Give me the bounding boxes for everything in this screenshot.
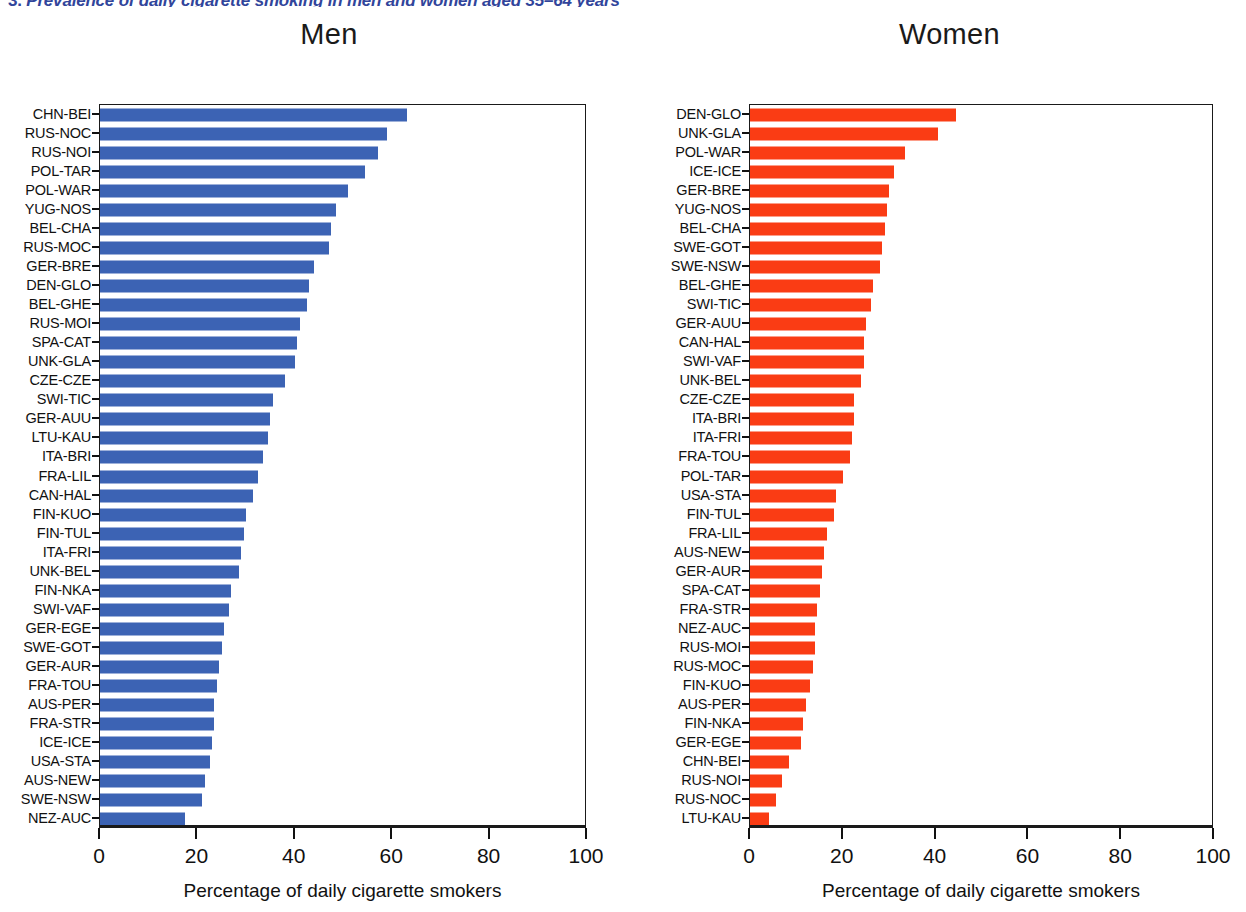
y-axis-label: GER-EGE <box>26 620 91 636</box>
y-axis-label: BEL-CHA <box>30 220 91 236</box>
x-axis-tick <box>841 828 843 839</box>
x-axis-tick <box>1119 828 1121 839</box>
y-axis-label: ITA-FRI <box>43 544 91 560</box>
bar <box>750 756 789 769</box>
y-axis-tick <box>92 608 99 610</box>
bar <box>100 794 202 807</box>
y-axis-label: POL-WAR <box>675 144 741 160</box>
y-axis-label: GER-AUR <box>26 658 91 674</box>
bar <box>750 508 834 521</box>
y-axis-tick <box>742 132 749 134</box>
y-axis-label: RUS-NOI <box>31 144 91 160</box>
bar <box>750 432 852 445</box>
y-axis-tick <box>742 455 749 457</box>
y-axis-tick <box>742 246 749 248</box>
y-axis-tick <box>92 436 99 438</box>
bar <box>750 527 827 540</box>
y-axis-label: ICE-ICE <box>39 734 91 750</box>
y-axis-tick <box>742 722 749 724</box>
y-axis-tick <box>92 189 99 191</box>
bar <box>100 699 214 712</box>
bar <box>750 584 820 597</box>
x-axis-tick <box>748 828 750 839</box>
bar <box>100 318 300 331</box>
x-axis-tick <box>1026 828 1028 839</box>
y-axis-label: FIN-NKA <box>34 582 91 598</box>
bar <box>100 241 329 254</box>
bar <box>100 432 268 445</box>
bar <box>100 337 297 350</box>
x-axis-tick <box>98 828 100 839</box>
y-axis-tick <box>742 303 749 305</box>
y-axis-label: SWI-VAF <box>33 601 91 617</box>
y-axis-tick <box>742 570 749 572</box>
bar <box>100 603 229 616</box>
bar <box>100 375 285 388</box>
y-axis-tick <box>742 817 749 819</box>
y-axis-tick <box>742 589 749 591</box>
y-axis-tick <box>742 608 749 610</box>
y-axis-label: FIN-KUO <box>683 677 741 693</box>
y-axis-label: FRA-STR <box>30 715 91 731</box>
y-axis-label: FRA-TOU <box>678 448 741 464</box>
y-axis-tick <box>742 113 749 115</box>
y-axis-label: DEN-GLO <box>26 277 91 293</box>
y-axis-label: SWI-TIC <box>37 391 91 407</box>
x-axis-tick-label: 20 <box>830 844 853 868</box>
y-axis-label: FIN-KUO <box>33 506 91 522</box>
y-axis-tick <box>742 494 749 496</box>
bar <box>100 184 348 197</box>
y-axis-tick <box>92 532 99 534</box>
y-axis-label: POL-WAR <box>25 182 91 198</box>
y-axis-label: ITA-BRI <box>692 410 741 426</box>
bar <box>750 280 873 293</box>
y-axis-label: BEL-GHE <box>29 296 91 312</box>
y-axis-tick <box>92 741 99 743</box>
y-axis-label: SWE-NSW <box>21 791 91 807</box>
bar <box>100 280 309 293</box>
bar <box>100 527 244 540</box>
y-axis-tick <box>742 627 749 629</box>
y-axis-label: POL-TAR <box>681 468 741 484</box>
bar <box>100 508 246 521</box>
bar <box>750 642 815 655</box>
y-axis-tick <box>92 494 99 496</box>
bar <box>100 451 263 464</box>
bar <box>100 260 314 273</box>
bar <box>100 489 253 502</box>
y-axis-tick <box>92 798 99 800</box>
y-axis-label: DEN-GLO <box>676 106 741 122</box>
figure-root: 3. Prevalence of daily cigarette smoking… <box>0 0 1246 912</box>
x-axis-tick-label: 0 <box>743 844 755 868</box>
bar <box>100 146 378 159</box>
x-axis-tick-label: 80 <box>1109 844 1132 868</box>
bar <box>750 413 854 426</box>
y-axis-tick <box>92 398 99 400</box>
bar <box>750 718 803 731</box>
y-axis-tick <box>742 227 749 229</box>
chart-panel-men: Men CHN-BEIRUS-NOCRUS-NOIPOL-TARPOL-WARY… <box>0 0 623 912</box>
y-axis-tick <box>92 455 99 457</box>
bar <box>750 337 864 350</box>
bar <box>750 794 776 807</box>
y-axis-tick <box>92 703 99 705</box>
y-axis-label: NEZ-AUC <box>678 620 741 636</box>
bar <box>100 127 387 140</box>
bar <box>100 680 217 693</box>
bar <box>100 622 224 635</box>
x-axis-tick-label: 40 <box>923 844 946 868</box>
y-axis-label: CAN-HAL <box>679 334 741 350</box>
y-axis-label: ITA-BRI <box>42 448 91 464</box>
bar <box>750 661 813 674</box>
plot-wrap-women: DEN-GLOUNK-GLAPOL-WARICE-ICEGER-BREYUG-N… <box>664 104 1213 828</box>
y-axis-label: ICE-ICE <box>689 163 741 179</box>
y-axis-label: RUS-MOC <box>23 239 91 255</box>
bar <box>750 356 864 369</box>
y-axis-label: RUS-NOI <box>681 772 741 788</box>
y-axis-tick <box>92 627 99 629</box>
y-axis-label: AUS-PER <box>28 696 91 712</box>
y-axis-label: YUG-NOS <box>675 201 741 217</box>
y-axis-tick <box>742 151 749 153</box>
y-axis-label: BEL-GHE <box>679 277 741 293</box>
bar <box>750 241 882 254</box>
